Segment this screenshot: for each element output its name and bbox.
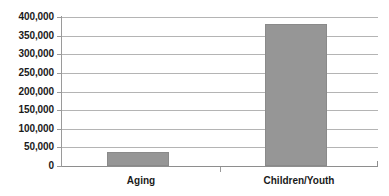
gridline (62, 92, 378, 93)
y-axis-tick-label: 150,000 (0, 105, 54, 115)
y-axis-tick-label: 50,000 (0, 142, 54, 152)
gridline (62, 110, 378, 111)
y-axis-tick-label: 200,000 (0, 87, 54, 97)
gridline (62, 129, 378, 130)
x-axis-category-label-children-youth: Children/Youth (220, 175, 378, 187)
gridline (62, 54, 378, 55)
y-axis-tick-label: 300,000 (0, 49, 54, 59)
x-axis-category-label-aging: Aging (62, 175, 220, 187)
y-axis-tick-label: 0 (0, 161, 54, 171)
y-axis-tick-label: 250,000 (0, 68, 54, 78)
x-axis-end-tick (377, 161, 378, 167)
gridline (62, 73, 378, 74)
gridline (62, 147, 378, 148)
bar-chart: 400,000 350,000 300,000 250,000 200,000 … (0, 0, 389, 196)
gridline (62, 36, 378, 37)
y-axis-tick-label: 100,000 (0, 124, 54, 134)
y-axis-label-group: 400,000 350,000 300,000 250,000 200,000 … (0, 17, 54, 166)
bar-children-youth[interactable] (265, 24, 327, 166)
y-axis-tick-label: 400,000 (0, 12, 54, 22)
x-axis-category-separator (220, 167, 221, 172)
bar-aging[interactable] (107, 152, 169, 166)
plot-area (62, 17, 378, 166)
y-axis-tick-label: 350,000 (0, 31, 54, 41)
gridline (62, 17, 378, 18)
